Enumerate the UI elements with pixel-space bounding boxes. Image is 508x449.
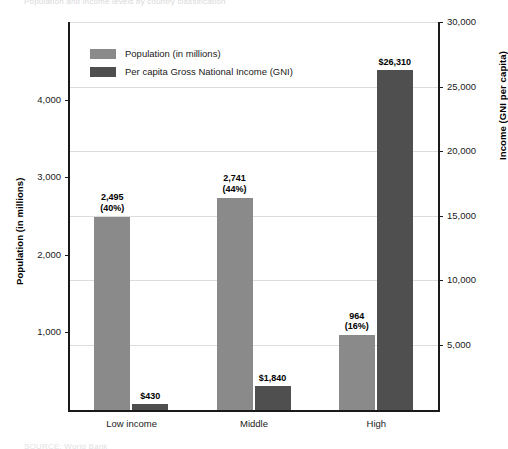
category-label-low-income: Low income (106, 418, 157, 429)
right-axis-tick (438, 87, 443, 88)
bar-gni-middle (255, 386, 291, 410)
legend-swatch-gni-icon (90, 67, 116, 77)
legend-item-gni: Per capita Gross National Income (GNI) (90, 64, 293, 79)
legend-swatch-population-icon (90, 49, 116, 59)
left-axis-tick (65, 177, 70, 178)
right-axis-tick-label: 10,000 (447, 275, 476, 285)
bar-label-population: 2,741(44%) (222, 173, 246, 194)
legend-label-population: Population (in millions) (125, 48, 221, 59)
right-axis-tick (438, 280, 443, 281)
category-label-high: High (367, 418, 387, 429)
bar-label-population-percent: (16%) (345, 321, 369, 332)
right-axis-tick (438, 151, 443, 152)
bar-population-middle (217, 198, 253, 410)
gridline (70, 22, 438, 23)
bar-population-low-income (94, 217, 130, 410)
bar-gni-low-income (132, 404, 168, 410)
left-axis-tick (65, 100, 70, 101)
bar-label-population-value: 964 (345, 311, 369, 322)
plot-area: 1,0002,0003,0004,000 5,00010,00015,00020… (68, 22, 440, 412)
right-axis-tick-label: 5,000 (447, 340, 471, 350)
left-axis-tick (65, 332, 70, 333)
chart-legend: Population (in millions) Per capita Gros… (90, 46, 293, 82)
right-axis-tick (438, 216, 443, 217)
left-axis-tick-label: 2,000 (37, 250, 61, 260)
legend-item-population: Population (in millions) (90, 46, 293, 61)
left-axis-tick-label: 3,000 (37, 172, 61, 182)
bar-label-population: 2,495(40%) (100, 192, 124, 213)
bar-label-population-value: 2,741 (222, 173, 246, 184)
bar-label-gni: $1,840 (259, 373, 287, 384)
right-axis-tick-label: 30,000 (447, 17, 476, 27)
bar-label-population: 964(16%) (345, 311, 369, 332)
category-label-middle: Middle (240, 418, 268, 429)
right-axis-title: Income (GNI per capita) (497, 51, 508, 160)
right-axis-tick (438, 345, 443, 346)
bar-label-gni: $430 (140, 391, 160, 402)
bar-label-population-percent: (40%) (100, 203, 124, 214)
bar-label-gni: $26,310 (379, 57, 412, 68)
bar-label-population-percent: (44%) (222, 184, 246, 195)
bar-population-high (339, 335, 375, 410)
bar-gni-high (377, 70, 413, 410)
left-axis-tick (65, 255, 70, 256)
left-axis-tick-label: 4,000 (37, 95, 61, 105)
right-axis-tick (438, 22, 443, 23)
left-axis-title: Population (in millions) (14, 178, 25, 285)
right-axis-tick-label: 20,000 (447, 146, 476, 156)
bar-label-population-value: 2,495 (100, 192, 124, 203)
clipped-top-caption: Population and income levels by country … (24, 0, 226, 6)
clipped-bottom-caption: SOURCE: World Bank (24, 442, 107, 449)
legend-label-gni: Per capita Gross National Income (GNI) (125, 66, 293, 77)
right-axis-tick-label: 25,000 (447, 82, 476, 92)
left-axis-tick-label: 1,000 (37, 327, 61, 337)
right-axis-tick-label: 15,000 (447, 211, 476, 221)
